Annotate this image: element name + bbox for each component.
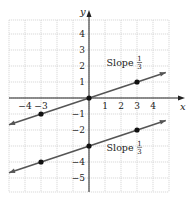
y-tick-label: −5 [72, 173, 86, 183]
data-point [86, 95, 91, 100]
slope-fraction-numerator: 1 [137, 55, 141, 63]
y-tick-label: −4 [72, 157, 86, 167]
line-arrow-icon [159, 120, 165, 124]
y-axis-label: y [79, 6, 86, 17]
y-tick-label: −2 [72, 125, 85, 135]
labels: xy−4−312344321−1−2−4−5Slope13Slope13 [18, 6, 186, 183]
x-tick-label: 1 [102, 101, 108, 111]
data-point [38, 111, 43, 116]
plot-svg: xy−4−312344321−1−2−4−5Slope13Slope13 [0, 0, 189, 200]
x-axis-arrow-icon [178, 96, 185, 101]
y-tick-label: 2 [79, 61, 85, 71]
x-tick-label: 2 [118, 101, 124, 111]
slope-fraction-numerator: 1 [137, 140, 141, 148]
x-tick-label: −3 [34, 101, 48, 111]
slope-label: Slope [107, 57, 134, 68]
data-point [38, 159, 43, 164]
x-tick-label: 3 [134, 101, 140, 111]
slope-label: Slope [107, 142, 134, 153]
data-point [134, 79, 139, 84]
data-point [134, 127, 139, 132]
data-point [86, 143, 91, 148]
y-tick-label: 3 [79, 45, 85, 55]
y-tick-label: −1 [72, 109, 85, 119]
y-tick-label: 1 [79, 77, 85, 87]
y-tick-label: 4 [79, 29, 85, 39]
x-axis-label: x [180, 101, 186, 112]
x-tick-label: 4 [150, 101, 156, 111]
y-axis-arrow-icon [87, 10, 92, 17]
line-arrow-icon [9, 169, 15, 173]
coordinate-plane: xy−4−312344321−1−2−4−5Slope13Slope13 [0, 0, 189, 200]
slope-fraction-denominator: 3 [137, 63, 141, 71]
slope-fraction-denominator: 3 [137, 148, 141, 156]
x-tick-label: −4 [18, 101, 32, 111]
lines [9, 72, 166, 173]
line-arrow-icon [159, 72, 165, 76]
line-arrow-icon [9, 121, 15, 125]
